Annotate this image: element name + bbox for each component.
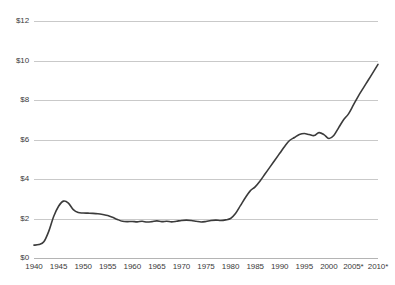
series-line-price: [34, 64, 378, 245]
y-axis-tick-label: $6: [20, 136, 29, 144]
x-axis-tick-label: 1990: [271, 262, 288, 271]
x-axis-tick-label: 1980: [222, 262, 239, 271]
x-axis-tick-label: 1960: [124, 262, 141, 271]
x-axis-tick-label: 1970: [173, 262, 190, 271]
plot-area: [34, 21, 378, 258]
x-axis-tick-label: 1955: [99, 262, 116, 271]
y-axis-tick-label: $12: [16, 17, 29, 25]
y-axis-tick-label: $2: [20, 215, 29, 223]
x-axis-tick-label: 1950: [74, 262, 91, 271]
x-axis-tick-label: 2000: [320, 262, 337, 271]
gridline: [34, 258, 378, 259]
x-axis-tick-label: 1965: [148, 262, 165, 271]
series-layer: [34, 21, 378, 258]
x-axis-tick-label: 1940: [25, 262, 42, 271]
x-axis-tick-label: 1945: [50, 262, 67, 271]
y-axis-tick-label: $8: [20, 96, 29, 104]
x-axis: 1940194519501955196019651970197519801985…: [0, 262, 395, 282]
y-axis: $12$10$8$6$4$2$0: [0, 0, 29, 285]
line-chart: $12$10$8$6$4$2$0 19401945195019551960196…: [0, 0, 395, 285]
y-axis-tick-label: $4: [20, 175, 29, 183]
x-axis-tick-label: 1985: [246, 262, 263, 271]
x-axis-tick-label: 1975: [197, 262, 214, 271]
x-axis-tick-label: 2010*: [368, 262, 388, 271]
y-axis-tick-label: $10: [16, 57, 29, 65]
y-axis-tick-label: $0: [20, 254, 29, 262]
x-axis-tick-label: 2005*: [343, 262, 363, 271]
x-axis-tick-label: 1995: [296, 262, 313, 271]
